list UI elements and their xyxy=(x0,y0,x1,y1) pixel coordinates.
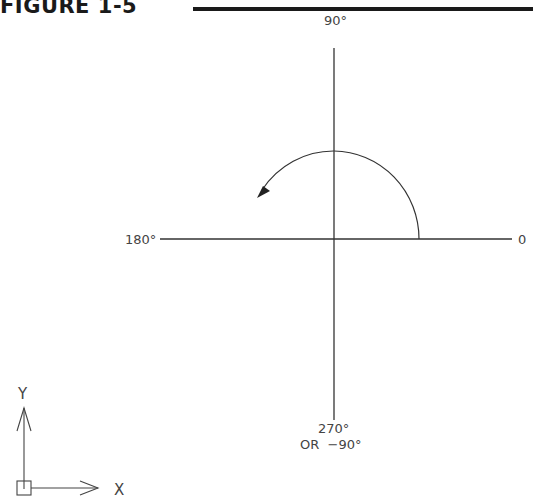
label-180: 180° xyxy=(125,232,156,247)
label-270-alt: OR −90° xyxy=(300,437,361,452)
rotation-arc xyxy=(262,151,419,239)
ucs-x-label: X xyxy=(114,481,124,499)
label-0: 0 xyxy=(518,232,526,247)
ucs-icon: Y X xyxy=(17,385,124,499)
ucs-y-label: Y xyxy=(17,385,28,403)
arrowhead-icon xyxy=(257,186,270,198)
label-270: 270° xyxy=(318,421,349,436)
label-90: 90° xyxy=(324,13,347,28)
